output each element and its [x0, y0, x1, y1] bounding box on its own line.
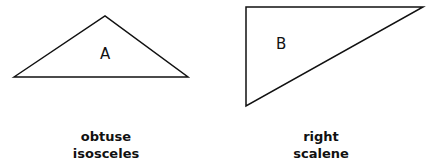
triangle-b-caption: right scalene: [261, 128, 381, 160]
caption-line: scalene: [261, 145, 381, 160]
triangle-b-label: B: [276, 35, 286, 53]
triangle-a-label: A: [100, 45, 110, 63]
triangle-b: [246, 7, 423, 106]
caption-line: right: [261, 128, 381, 145]
caption-line: obtuse: [46, 128, 166, 145]
triangle-a-caption: obtuse isosceles: [46, 128, 166, 160]
caption-line: isosceles: [46, 145, 166, 160]
